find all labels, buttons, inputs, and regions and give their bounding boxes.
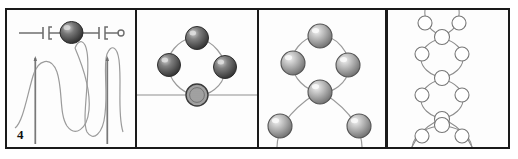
needle-right [106, 58, 108, 144]
panel-1-needles-and-thread [7, 10, 135, 147]
panel-2-artwork [137, 10, 257, 147]
chain-bead-5 [455, 47, 469, 61]
bead-left [158, 54, 181, 77]
bead-dark-top [60, 22, 83, 44]
bead-picot-left [268, 114, 292, 138]
chain-bead-6 [434, 71, 449, 86]
panel-4-completed-chain [388, 10, 508, 147]
chain-bead-10 [415, 129, 429, 143]
chain-bead-group [415, 16, 469, 143]
chain-bead-1 [418, 16, 432, 30]
chain-bead-12 [434, 118, 449, 133]
needle-left-point-icon [34, 56, 37, 61]
thread-loop-right [75, 42, 107, 137]
panel-3-ring-with-picots [259, 10, 385, 147]
bead-top [186, 27, 209, 50]
panel-4-artwork [388, 10, 508, 147]
bead-bottom-hatched [186, 84, 208, 106]
bead-ring-right [336, 53, 360, 77]
needle-left [34, 58, 36, 144]
bead-right [214, 56, 237, 79]
chain-bead-4 [415, 47, 429, 61]
panel-2-four-bead-ring [137, 10, 257, 147]
chain-bead-8 [455, 88, 469, 102]
bead-ring-left [281, 51, 305, 75]
panel-1-artwork [7, 10, 135, 147]
chain-bead-11 [455, 129, 469, 143]
bead-ring-bottom-shared [308, 80, 332, 104]
bead-picot-right [347, 114, 371, 138]
panel-3-artwork [259, 10, 385, 147]
thread-loop-left [15, 48, 89, 131]
figure-frame: 4 [5, 8, 510, 149]
chain-bead-7 [415, 88, 429, 102]
figure-number-label: 4 [17, 127, 24, 143]
thread-loop-tail [107, 48, 123, 132]
chain-bead-2 [452, 16, 466, 30]
chain-bead-3 [434, 30, 449, 45]
bead-ring-top [308, 24, 332, 48]
figure-container: 4 [0, 0, 518, 159]
